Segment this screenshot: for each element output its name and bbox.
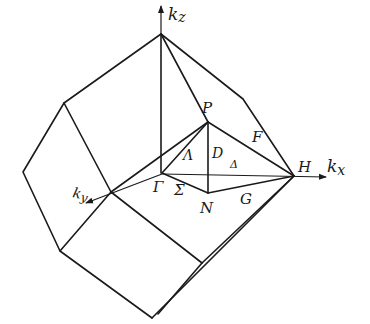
kz-label: kz bbox=[168, 4, 186, 25]
point-gamma-label: Γ bbox=[152, 178, 164, 196]
kx-label: kx bbox=[327, 156, 345, 178]
ky-axis bbox=[86, 174, 162, 203]
point-P-label: P bbox=[201, 99, 213, 117]
point-N-label: N bbox=[199, 199, 214, 217]
line-G-label: G bbox=[240, 190, 252, 208]
line-delta-label: Δ bbox=[229, 158, 238, 171]
point-H-label: H bbox=[297, 158, 312, 176]
brillouin-zone-diagram: kz kx ky P H N Γ Λ D Δ F G Σ bbox=[0, 0, 370, 324]
line-lambda-label: Λ bbox=[181, 147, 193, 163]
line-D-label: D bbox=[211, 145, 223, 161]
line-sigma-label: Σ bbox=[173, 181, 185, 199]
line-F-label: F bbox=[251, 128, 263, 146]
